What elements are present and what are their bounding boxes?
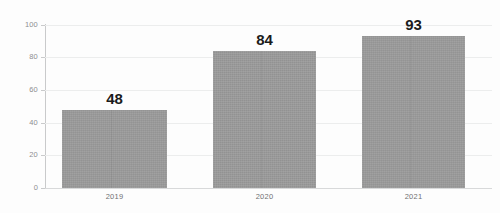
- y-tick-label-60: 60: [12, 86, 38, 94]
- bar-chart: 100 80 60 40 20 0 48 84 93: [0, 0, 500, 213]
- x-tick-label-2020: 2020: [213, 193, 316, 201]
- bar-2020[interactable]: [213, 51, 316, 188]
- y-tick-label-40: 40: [12, 119, 38, 127]
- y-tick-label-0: 0: [12, 184, 38, 192]
- y-tick-label-100: 100: [12, 21, 38, 29]
- y-tick-label-20: 20: [12, 151, 38, 159]
- y-axis-labels: 100 80 60 40 20 0: [8, 0, 38, 213]
- bar-2019[interactable]: [62, 110, 167, 188]
- x-tick-label-2021: 2021: [362, 193, 465, 201]
- value-label-2019: 48: [62, 91, 167, 106]
- value-label-2020: 84: [213, 32, 316, 47]
- bar-seam: [111, 110, 112, 188]
- value-label-2021: 93: [362, 17, 465, 32]
- bar-seam: [410, 36, 411, 188]
- x-tick-label-2019: 2019: [62, 193, 167, 201]
- x-axis-baseline: [45, 188, 492, 189]
- bar-2021[interactable]: [362, 36, 465, 188]
- y-tick-label-80: 80: [12, 53, 38, 61]
- bar-seam: [261, 51, 262, 188]
